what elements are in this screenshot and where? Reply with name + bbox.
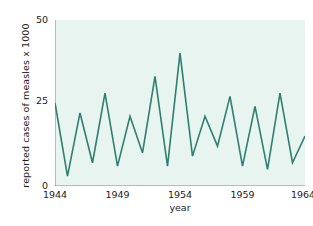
x-tick-label-1954: 1954: [168, 190, 192, 200]
x-tick-label-1944: 1944: [43, 190, 67, 200]
x-axis-title: year: [55, 202, 305, 213]
x-tick-label-1949: 1949: [105, 190, 129, 200]
y-tick-label-25: 25: [26, 96, 48, 106]
chart-svg: [55, 20, 305, 186]
x-tick-label-1959: 1959: [230, 190, 254, 200]
y-tick-label-50: 50: [26, 15, 48, 25]
x-tick-label-1964: 1964: [291, 190, 313, 200]
plot-area: [55, 20, 305, 186]
measles-line-chart: reported cases of measles x 1000 50 25 0…: [0, 0, 313, 226]
